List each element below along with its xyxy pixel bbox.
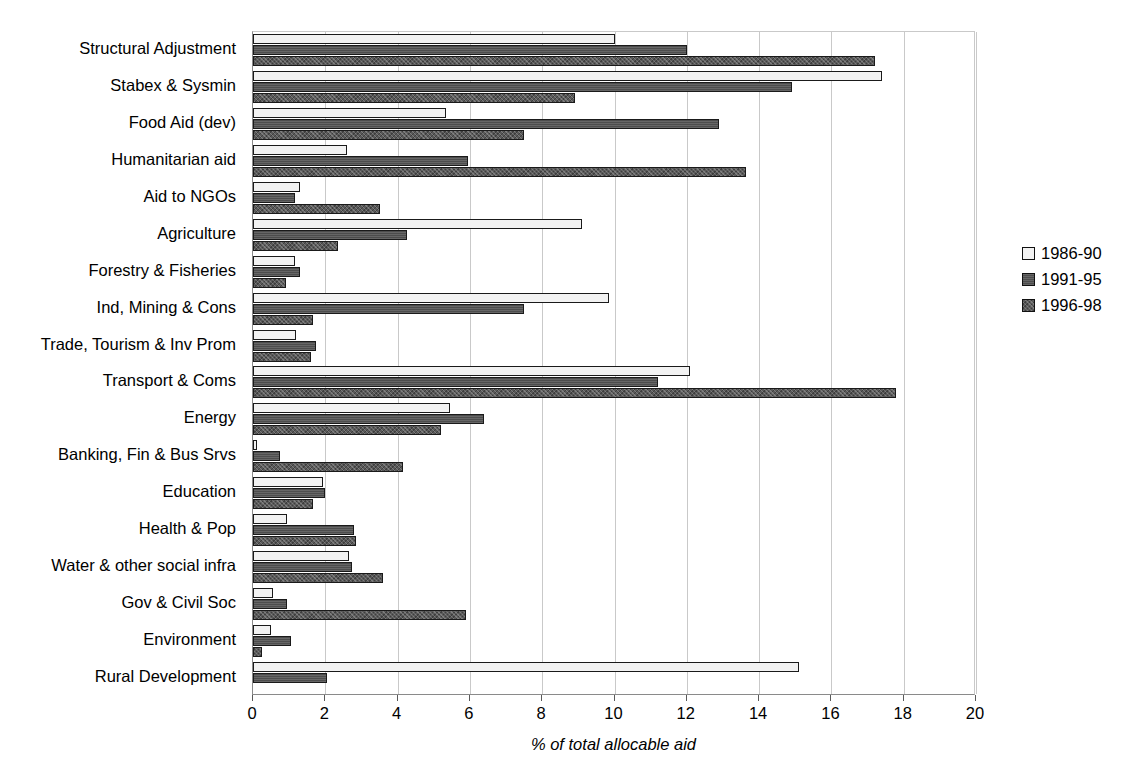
x-axis-tick-label: 10 xyxy=(594,704,634,722)
bar-group xyxy=(253,292,974,329)
bar-group xyxy=(253,513,974,550)
bar xyxy=(253,499,313,509)
bar xyxy=(253,156,468,166)
legend-swatch-icon xyxy=(1022,273,1035,286)
x-axis-tick xyxy=(469,695,470,701)
bar xyxy=(253,588,273,598)
bar-group xyxy=(253,402,974,439)
bar-group xyxy=(253,476,974,513)
x-axis-tick-label: 8 xyxy=(521,704,561,722)
bar-group xyxy=(253,33,974,70)
category-label: Education xyxy=(0,483,236,499)
bar-chart: Structural AdjustmentStabex & SysminFood… xyxy=(0,0,1139,781)
bar xyxy=(253,56,875,66)
bar xyxy=(253,267,300,277)
x-axis-tick-label: 16 xyxy=(810,704,850,722)
bar xyxy=(253,304,524,314)
bar xyxy=(253,145,347,155)
bar xyxy=(253,562,352,572)
bar xyxy=(253,93,575,103)
category-label: Stabex & Sysmin xyxy=(0,77,236,93)
x-axis-tick xyxy=(830,695,831,701)
bar xyxy=(253,130,524,140)
bar-group xyxy=(253,107,974,144)
category-label: Rural Development xyxy=(0,668,236,684)
category-label: Energy xyxy=(0,409,236,425)
category-label: Ind, Mining & Cons xyxy=(0,299,236,315)
bar-group xyxy=(253,144,974,181)
legend-item[interactable]: 1986-90 xyxy=(1022,240,1134,266)
legend-item[interactable]: 1991-95 xyxy=(1022,266,1134,292)
bar-group xyxy=(253,661,974,698)
gridline xyxy=(976,32,977,694)
bar xyxy=(253,341,316,351)
x-axis-tick xyxy=(758,695,759,701)
bar xyxy=(253,388,896,398)
category-label: Structural Adjustment xyxy=(0,40,236,56)
category-label: Humanitarian aid xyxy=(0,151,236,167)
bar-group xyxy=(253,365,974,402)
x-axis-tick xyxy=(252,695,253,701)
bar xyxy=(253,167,746,177)
category-label: Water & other social infra xyxy=(0,557,236,573)
x-axis-tick xyxy=(975,695,976,701)
bar xyxy=(253,462,403,472)
bar xyxy=(253,278,286,288)
bar xyxy=(253,377,658,387)
bar-group xyxy=(253,329,974,366)
x-axis-tick-label: 18 xyxy=(883,704,923,722)
bar xyxy=(253,440,257,450)
bar xyxy=(253,219,582,229)
bar xyxy=(253,647,262,657)
bar xyxy=(253,488,325,498)
bar xyxy=(253,71,882,81)
category-label: Food Aid (dev) xyxy=(0,114,236,130)
category-label: Agriculture xyxy=(0,225,236,241)
x-axis-tick-label: 20 xyxy=(955,704,995,722)
bar xyxy=(253,625,271,635)
legend-item[interactable]: 1996-98 xyxy=(1022,292,1134,318)
bar-group xyxy=(253,587,974,624)
bar-group xyxy=(253,218,974,255)
legend-swatch-icon xyxy=(1022,247,1035,260)
legend-label: 1986-90 xyxy=(1041,245,1102,262)
legend: 1986-901991-951996-98 xyxy=(1022,240,1134,318)
bar-group xyxy=(253,255,974,292)
bar xyxy=(253,477,323,487)
bar xyxy=(253,45,687,55)
x-axis-tick xyxy=(614,695,615,701)
bar-group xyxy=(253,550,974,587)
bar xyxy=(253,241,338,251)
bar xyxy=(253,662,799,672)
x-axis-tick xyxy=(686,695,687,701)
category-label: Environment xyxy=(0,631,236,647)
bar xyxy=(253,599,287,609)
x-axis-tick xyxy=(397,695,398,701)
category-label: Transport & Coms xyxy=(0,372,236,388)
bar xyxy=(253,256,295,266)
bar-group xyxy=(253,70,974,107)
bar xyxy=(253,403,450,413)
plot-area xyxy=(252,31,975,695)
bar xyxy=(253,536,356,546)
bar xyxy=(253,525,354,535)
bar xyxy=(253,119,719,129)
bar xyxy=(253,451,280,461)
category-label: Banking, Fin & Bus Srvs xyxy=(0,446,236,462)
bar xyxy=(253,673,327,683)
bar xyxy=(253,366,690,376)
bar xyxy=(253,315,313,325)
x-axis-tick-label: 0 xyxy=(232,704,272,722)
x-axis-tick xyxy=(903,695,904,701)
x-axis-title: % of total allocable aid xyxy=(252,735,975,754)
x-axis-tick xyxy=(541,695,542,701)
category-label: Gov & Civil Soc xyxy=(0,594,236,610)
category-label: Trade, Tourism & Inv Prom xyxy=(0,336,236,352)
category-label: Aid to NGOs xyxy=(0,188,236,204)
bar xyxy=(253,610,466,620)
bar xyxy=(253,34,615,44)
bar xyxy=(253,330,296,340)
bar xyxy=(253,182,300,192)
x-axis-tick-label: 14 xyxy=(738,704,778,722)
bar xyxy=(253,108,446,118)
